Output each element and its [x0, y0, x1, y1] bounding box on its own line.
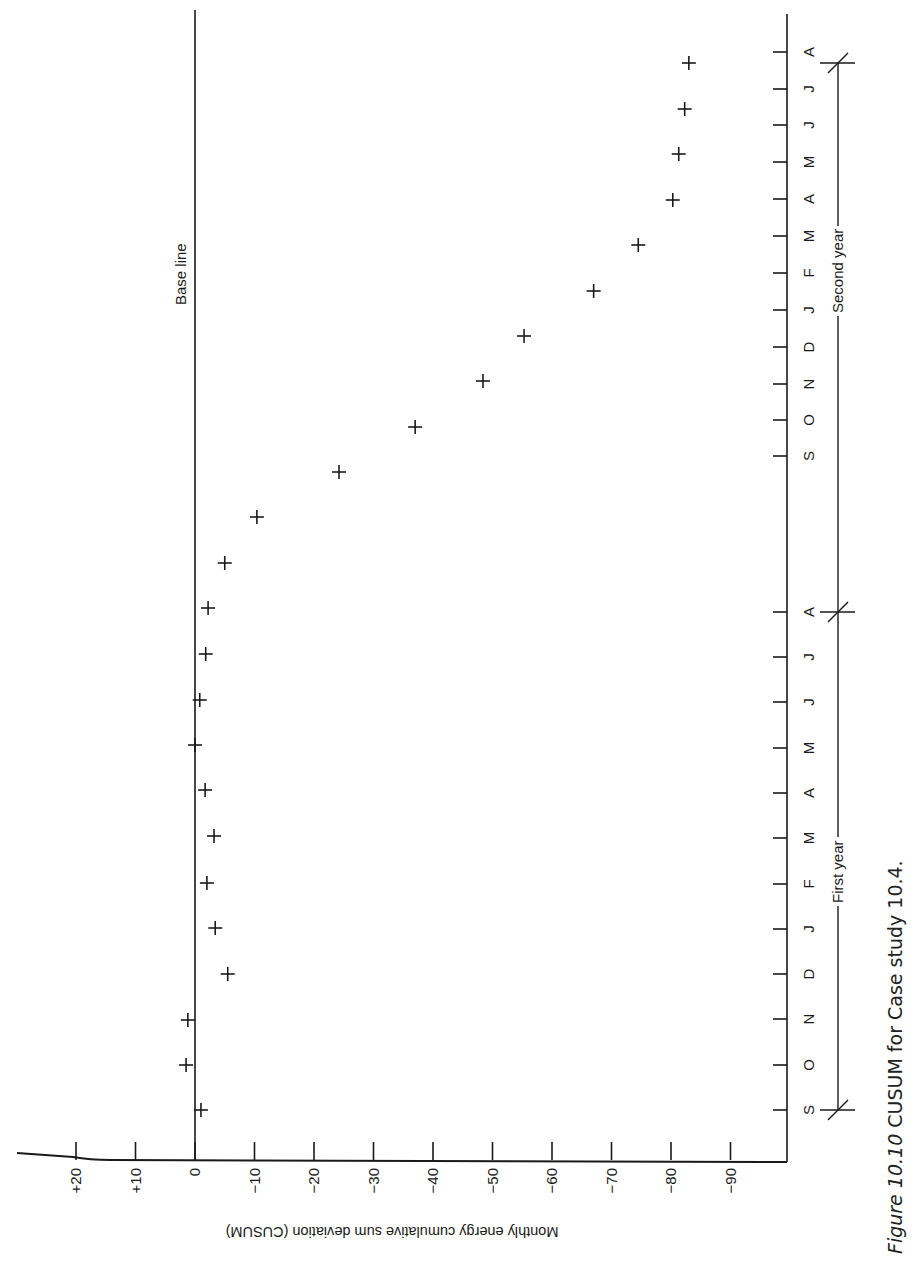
plus-marker-icon — [198, 783, 212, 797]
plus-marker-icon — [179, 1058, 193, 1072]
month-tick-label: D — [800, 341, 817, 352]
plus-marker-icon — [332, 465, 346, 479]
month-tick-label: J — [800, 925, 817, 933]
figure-number: Figure 10.10 — [884, 1134, 906, 1254]
month-tick-label: J — [800, 698, 817, 706]
plus-marker-icon — [207, 829, 221, 843]
plus-marker-icon — [476, 374, 490, 388]
value-tick-label: −70 — [603, 1168, 620, 1193]
month-axis-ticks: SONDJFMAMJJASONDJFMAMJJA — [773, 47, 817, 1115]
value-tick-label: −60 — [543, 1168, 560, 1193]
month-tick-label: N — [800, 1014, 817, 1025]
plus-marker-icon — [678, 102, 692, 116]
month-tick-label: F — [800, 268, 817, 277]
plus-marker-icon — [199, 647, 213, 661]
plus-marker-icon — [408, 420, 422, 434]
plus-marker-icon — [201, 601, 215, 615]
baseline-label: Base line — [172, 243, 189, 305]
month-tick-label: A — [800, 607, 817, 617]
plus-marker-icon — [181, 1013, 195, 1027]
value-tick-label: −30 — [365, 1168, 382, 1193]
month-tick-label: N — [800, 379, 817, 390]
month-tick-label: M — [800, 742, 817, 755]
plus-marker-icon — [188, 738, 202, 752]
month-tick-label: O — [800, 1059, 817, 1071]
value-tick-label: −90 — [722, 1168, 739, 1193]
value-tick-label: +20 — [67, 1168, 84, 1193]
value-axis-ticks: +20+100−10−20−30−40−50−60−70−80−90 — [67, 1142, 739, 1193]
data-points — [179, 56, 696, 1117]
month-tick-label: M — [800, 230, 817, 243]
plus-marker-icon — [587, 284, 601, 298]
month-tick-label: J — [800, 653, 817, 661]
first-year-label: First year — [829, 837, 846, 906]
value-tick-label: 0 — [186, 1168, 203, 1176]
value-tick-label: −20 — [305, 1168, 322, 1193]
value-tick-label: +10 — [127, 1168, 144, 1193]
plus-marker-icon — [517, 329, 531, 343]
month-tick-label: F — [800, 879, 817, 888]
plus-marker-icon — [666, 193, 680, 207]
y-axis-title: Monthly energy cumulative sum deviation … — [226, 1224, 559, 1240]
caption-text: CUSUM for Case study 10.4. — [884, 860, 906, 1127]
value-tick-label: −50 — [484, 1168, 501, 1193]
plus-marker-icon — [208, 921, 222, 935]
month-tick-label: J — [800, 85, 817, 93]
plus-marker-icon — [682, 56, 696, 70]
plus-marker-icon — [221, 967, 235, 981]
month-tick-label: M — [800, 832, 817, 845]
month-tick-label: O — [800, 414, 817, 426]
plus-marker-icon — [218, 556, 232, 570]
month-tick-label: A — [800, 47, 817, 57]
plus-marker-icon — [194, 1103, 208, 1117]
month-tick-label: J — [800, 121, 817, 129]
month-tick-label: J — [800, 306, 817, 314]
plus-marker-icon — [200, 876, 214, 890]
month-tick-label: S — [800, 451, 817, 461]
value-tick-label: −80 — [662, 1168, 679, 1193]
month-tick-label: A — [800, 194, 817, 204]
year-brackets — [820, 53, 855, 1120]
value-tick-label: −10 — [246, 1168, 263, 1193]
chart-axes — [17, 10, 787, 1162]
plus-marker-icon — [250, 510, 264, 524]
month-tick-label: M — [800, 156, 817, 169]
figure-caption: Figure 10.10 CUSUM for Case study 10.4. — [884, 860, 906, 1254]
month-tick-label: D — [800, 968, 817, 979]
plus-marker-icon — [631, 238, 645, 252]
month-tick-label: A — [800, 788, 817, 798]
plus-marker-icon — [672, 147, 686, 161]
value-tick-label: −40 — [424, 1168, 441, 1193]
second-year-label: Second year — [829, 226, 846, 316]
cusum-chart: +20+100−10−20−30−40−50−60−70−80−90 SONDJ… — [0, 0, 923, 1271]
month-tick-label: S — [800, 1105, 817, 1115]
